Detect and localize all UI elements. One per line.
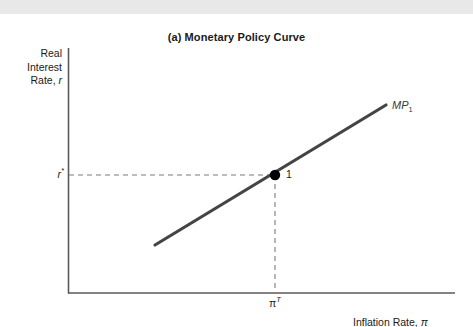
- y-axis-title-line-2: Interest: [0, 61, 62, 75]
- x-axis-title-variable: π: [421, 316, 428, 327]
- x-axis-title-prefix: Inflation Rate,: [353, 316, 421, 327]
- x-tick-label-pi-target: πT: [259, 295, 291, 309]
- x-tick-superscript: T: [276, 295, 281, 304]
- mp1-label-base: MP: [392, 99, 409, 111]
- x-axis-title: Inflation Rate, π: [353, 316, 428, 327]
- y-axis-title-variable: r: [59, 74, 63, 86]
- equilibrium-point-label: 1: [286, 168, 292, 180]
- y-axis-title: Real Interest Rate, r: [0, 47, 62, 88]
- plot-area: [0, 0, 473, 327]
- mp1-curve-label: MP1: [392, 99, 413, 114]
- y-tick-superscript: *: [61, 166, 64, 175]
- y-tick-label-r-star: r*: [46, 166, 64, 180]
- y-axis-title-line-3-prefix: Rate,: [30, 74, 58, 86]
- mp1-label-subscript: 1: [409, 105, 413, 114]
- y-axis-title-line-1: Real: [0, 47, 62, 61]
- equilibrium-point-marker: [270, 170, 280, 180]
- y-axis-title-line-3: Rate, r: [0, 74, 62, 88]
- figure-monetary-policy-curve: (a) Monetary Policy Curve Real Interest …: [0, 0, 473, 327]
